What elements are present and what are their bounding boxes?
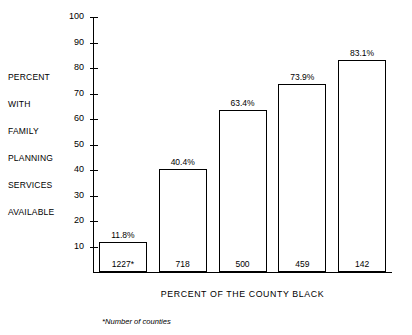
plot-area: 10203040506070809010011.8%1227*Zero40.4%…: [93, 17, 392, 272]
bar-value-label: 11.8%: [111, 230, 134, 240]
y-axis-tick-label: 60: [74, 113, 84, 124]
bar-count-label: 142: [355, 259, 369, 269]
y-axis-title-word: PLANNING: [8, 153, 82, 180]
bar-value-label: 73.9%: [290, 72, 314, 82]
bar-count-label: 459: [295, 259, 309, 269]
y-axis-tick: 20: [90, 221, 98, 222]
y-axis-tick-label: 70: [74, 88, 84, 99]
bar-count-label: 1227*: [112, 259, 134, 269]
y-axis-tick: 70: [90, 94, 98, 95]
bar: 40.4%718: [159, 169, 207, 272]
y-axis-title-word: PERCENT: [8, 72, 82, 99]
y-axis-tick-label: 30: [74, 190, 84, 201]
bar-value-label: 40.4%: [171, 157, 195, 167]
y-axis-tick: 90: [90, 43, 98, 44]
y-axis-tick: 40: [90, 170, 98, 171]
bar: 73.9%459: [278, 84, 326, 272]
bar-value-label: 63.4%: [230, 98, 254, 108]
bar: 63.4%500: [219, 110, 267, 272]
y-axis-tick: 30: [90, 196, 98, 197]
y-axis-tick-label: 50: [74, 139, 84, 150]
x-axis-title: PERCENT OF THE COUNTY BLACK: [93, 289, 392, 299]
y-axis-title-word: WITH: [8, 99, 82, 126]
y-axis-title-word: FAMILY: [8, 126, 82, 153]
bar-count-label: 718: [176, 259, 190, 269]
y-axis-tick-label: 80: [74, 62, 84, 73]
y-axis-tick: 80: [90, 68, 98, 69]
y-axis-tick-label: 10: [74, 241, 84, 252]
y-axis-tick-label: 40: [74, 164, 84, 175]
chart-footnote: *Number of counties: [102, 317, 171, 326]
y-axis-tick: 50: [90, 145, 98, 146]
y-axis-tick: 100: [90, 17, 98, 18]
y-axis-tick-label: 100: [69, 11, 84, 22]
bar-chart: PERCENT WITH FAMILY PLANNING SERVICES AV…: [0, 0, 412, 335]
bar-count-label: 500: [235, 259, 249, 269]
bar: 83.1%142: [338, 60, 386, 272]
y-axis-tick-label: 20: [74, 215, 84, 226]
y-axis-tick: 10: [90, 247, 98, 248]
y-axis-title-word: AVAILABLE: [8, 207, 82, 234]
bar: 11.8%1227*: [99, 242, 147, 272]
y-axis-title: PERCENT WITH FAMILY PLANNING SERVICES AV…: [8, 72, 82, 234]
y-axis-tick-label: 90: [74, 37, 84, 48]
x-axis-line: [93, 272, 392, 273]
bar-value-label: 83.1%: [350, 48, 374, 58]
y-axis-tick: 60: [90, 119, 98, 120]
y-axis-title-word: SERVICES: [8, 180, 82, 207]
